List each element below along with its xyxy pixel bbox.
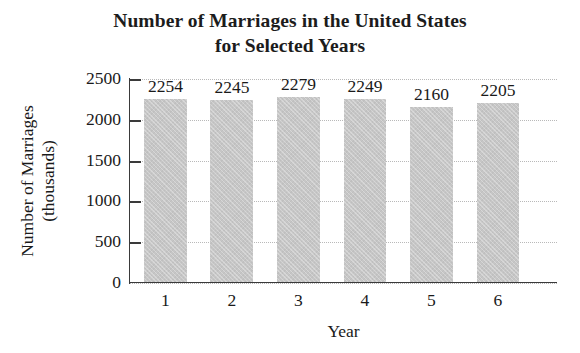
x-axis-line xyxy=(129,282,557,283)
x-tick-label-5: 5 xyxy=(398,291,465,309)
bar-value-label: 2249 xyxy=(332,78,399,96)
bar xyxy=(410,107,453,283)
bar xyxy=(210,100,253,283)
y-tick-label-500: 500 xyxy=(59,233,121,251)
y-tick-label-1000: 1000 xyxy=(59,192,121,210)
x-tick-label-2: 2 xyxy=(198,291,265,309)
bar-value-label: 2205 xyxy=(465,82,532,100)
y-axis-title-line-2: (thousands) xyxy=(38,71,59,291)
y-tick-label-2000: 2000 xyxy=(59,111,121,129)
y-tick-2500 xyxy=(130,79,141,81)
bar-value-label: 2160 xyxy=(398,86,465,104)
plot-area: 225422452279224921602205 xyxy=(130,79,557,283)
x-tick-label-1: 1 xyxy=(132,291,199,309)
x-tick-label-3: 3 xyxy=(265,291,332,309)
y-tick-1500 xyxy=(130,161,141,163)
bar xyxy=(144,99,187,283)
y-tick-500 xyxy=(130,242,141,244)
y-tick-2000 xyxy=(130,120,141,122)
x-tick-label-4: 4 xyxy=(332,291,399,309)
bar xyxy=(477,103,520,283)
y-tick-label-0: 0 xyxy=(59,274,121,292)
bar-value-label: 2245 xyxy=(198,79,265,97)
y-axis-line xyxy=(129,78,130,284)
y-tick-label-1500: 1500 xyxy=(59,152,121,170)
bar xyxy=(344,99,387,283)
gridline-0 xyxy=(130,283,557,284)
x-axis-title: Year xyxy=(130,322,557,341)
y-tick-label-2500: 2500 xyxy=(59,70,121,88)
bar xyxy=(277,97,320,283)
y-tick-1000 xyxy=(130,201,141,203)
y-axis-title-line-1: Number of Marriages xyxy=(17,71,38,291)
y-axis-tick-labels: 05001000150020002500 xyxy=(59,0,121,353)
bar-value-label: 2254 xyxy=(132,78,199,96)
bar-value-label: 2279 xyxy=(265,76,332,94)
x-tick-label-6: 6 xyxy=(465,291,532,309)
y-axis-title: Number of Marriages (thousands) xyxy=(17,71,59,291)
